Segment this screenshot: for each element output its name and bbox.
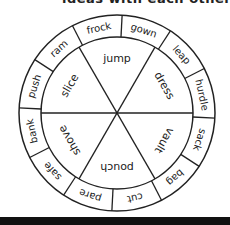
inner-word: pouch xyxy=(100,161,134,174)
inner-word: dress xyxy=(151,70,177,102)
inner-word: slice xyxy=(58,72,82,100)
outer-word: bank xyxy=(24,118,40,145)
outer-divider xyxy=(181,154,199,166)
outer-word: gown xyxy=(129,21,158,40)
outer-word: sack xyxy=(191,127,209,152)
outer-divider xyxy=(35,60,53,72)
inner-word: shove xyxy=(56,123,84,158)
outer-divider xyxy=(19,108,41,109)
inner-spokes xyxy=(41,47,193,179)
outer-divider xyxy=(112,189,113,211)
inner-word: vault xyxy=(152,125,177,156)
outer-divider xyxy=(152,181,162,201)
outer-divider xyxy=(64,177,76,195)
outer-divider xyxy=(193,117,215,118)
outer-divider xyxy=(73,26,83,46)
outer-word: hurdle xyxy=(193,78,210,111)
outer-word: pare xyxy=(78,187,103,204)
word-wheel: gownleaphurdlesackbagcutparesafebankpush… xyxy=(0,0,230,225)
outer-divider xyxy=(121,15,122,37)
inner-word: jump xyxy=(102,52,131,65)
outer-word: push xyxy=(25,73,43,99)
outer-word: cut xyxy=(126,191,144,205)
bottom-bar xyxy=(0,217,230,225)
outer-divider xyxy=(158,31,170,49)
outer-word: frock xyxy=(86,20,113,36)
outer-divider xyxy=(185,69,205,79)
outer-divider xyxy=(30,148,50,158)
